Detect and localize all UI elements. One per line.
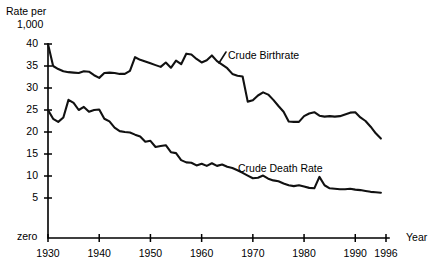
axes-group (44, 44, 389, 242)
y-axis-tick-label: 5 (12, 192, 38, 203)
y-axis-title-line2: 1,000 (17, 19, 43, 30)
x-axis-tick-label: 1930 (28, 248, 68, 259)
x-axis-tick-label: 1980 (284, 248, 324, 259)
series-line-crude-birthrate (48, 44, 381, 139)
series-label-crude-death-rate: Crude Death Rate (238, 163, 323, 174)
series-group (48, 44, 381, 193)
y-axis-tick-label: 30 (12, 82, 38, 93)
y-axis-tick-label: 15 (12, 148, 38, 159)
y-axis-title-line1: Rate per (6, 6, 46, 17)
x-axis-tick-label: 1940 (79, 248, 119, 259)
y-axis-tick-label: 10 (12, 170, 38, 181)
x-axis-tick-label: 1996 (366, 248, 406, 259)
y-axis-tick-label: 35 (12, 60, 38, 71)
x-axis-tick-label: 1950 (130, 248, 170, 259)
y-axis-tick-label: 25 (12, 104, 38, 115)
y-axis-tick-label: 40 (12, 38, 38, 49)
x-axis-title: Year (406, 232, 427, 243)
y-axis-tick-label: 20 (12, 126, 38, 137)
birthrate-label-leader-line (219, 52, 226, 63)
x-axis-tick-label: 1970 (233, 248, 273, 259)
axis-lines (48, 44, 389, 238)
chart-plot-area (0, 0, 443, 271)
series-label-crude-birthrate: Crude Birthrate (228, 50, 299, 61)
chart-container: Rate per 1,000 zero Year 403530252015105… (0, 0, 443, 271)
series-line-crude-death-rate (48, 100, 381, 193)
leader-line-group (219, 52, 226, 63)
x-axis-tick-label: 1960 (182, 248, 222, 259)
y-axis-zero-label: zero (17, 231, 37, 242)
